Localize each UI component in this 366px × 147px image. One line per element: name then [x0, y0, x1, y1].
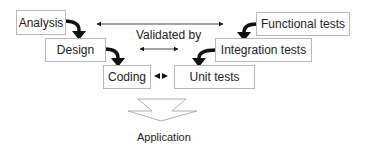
hollow-arrow-to-application — [128, 99, 197, 121]
box-integration-tests: Integration tests — [215, 38, 312, 62]
box-analysis: Analysis — [16, 10, 66, 35]
box-functional-tests-label: Functional tests — [261, 17, 345, 31]
box-integration-tests-label: Integration tests — [221, 43, 306, 57]
application-label: Application — [137, 131, 191, 143]
box-design-label: Design — [57, 43, 94, 57]
box-functional-tests: Functional tests — [256, 12, 350, 36]
box-design: Design — [45, 38, 106, 62]
box-coding-label: Coding — [108, 70, 146, 84]
validation-arrow-coding-unit — [154, 73, 168, 79]
box-unit-tests-label: Unit tests — [189, 70, 239, 84]
box-analysis-label: Analysis — [19, 16, 64, 30]
validated-by-label: Validated by — [136, 28, 201, 42]
box-coding: Coding — [103, 65, 151, 89]
box-unit-tests: Unit tests — [174, 65, 255, 89]
